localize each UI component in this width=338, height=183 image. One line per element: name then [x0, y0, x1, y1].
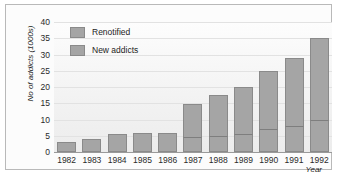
x-axis-title: Year [306, 165, 322, 174]
bar-segment-renotified[interactable] [310, 38, 329, 119]
x-axis-tick-label: 1985 [133, 155, 152, 167]
legend-label: New addicts [92, 46, 138, 55]
legend-swatch-icon [70, 45, 85, 56]
bar-column[interactable] [183, 22, 202, 152]
legend-item[interactable]: Renotified [70, 26, 138, 39]
bar-column[interactable] [310, 22, 329, 152]
bar-column[interactable] [158, 22, 177, 152]
y-axis-tick-label: 0 [28, 148, 50, 156]
bar-segment-new-addicts[interactable] [183, 137, 202, 152]
chart-legend: RenotifiedNew addicts [70, 26, 138, 62]
bar-segment-new-addicts[interactable] [133, 133, 152, 153]
x-axis-line [54, 152, 332, 153]
legend-swatch-icon [70, 27, 85, 38]
y-axis-tick-label: 25 [28, 67, 50, 75]
bar-segment-new-addicts[interactable] [285, 126, 304, 152]
bar-segment-renotified[interactable] [259, 71, 278, 129]
bar-segment-new-addicts[interactable] [259, 129, 278, 152]
legend-label: Renotified [92, 28, 130, 37]
bar-segment-renotified[interactable] [183, 104, 202, 137]
bar-segment-renotified[interactable] [234, 87, 253, 134]
bar-segment-new-addicts[interactable] [310, 120, 329, 153]
y-axis-tick-label: 20 [28, 83, 50, 91]
x-axis-tick-label: 1991 [285, 155, 304, 167]
x-axis-tick-label: 1982 [57, 155, 76, 167]
y-axis-tick-label: 5 [28, 132, 50, 140]
bar-column[interactable] [285, 22, 304, 152]
x-axis-tick-label: 1983 [82, 155, 101, 167]
bar-segment-new-addicts[interactable] [209, 136, 228, 152]
bar-segment-new-addicts[interactable] [158, 133, 177, 152]
chart-figure: No of addicts (1000s) 0510152025303540 1… [0, 0, 338, 183]
y-axis-tick-label: 15 [28, 99, 50, 107]
bar-column[interactable] [209, 22, 228, 152]
bar-segment-new-addicts[interactable] [57, 142, 76, 152]
legend-item[interactable]: New addicts [70, 44, 138, 57]
bar-segment-new-addicts[interactable] [108, 134, 127, 152]
bar-segment-renotified[interactable] [209, 95, 228, 136]
x-axis-tick-label: 1987 [183, 155, 202, 167]
y-axis-tick-label: 10 [28, 116, 50, 124]
bar-segment-new-addicts[interactable] [234, 134, 253, 152]
bar-segment-new-addicts[interactable] [82, 139, 101, 152]
y-axis-tick-labels: 0510152025303540 [26, 22, 50, 153]
bar-column[interactable] [234, 22, 253, 152]
chart-frame: No of addicts (1000s) 0510152025303540 1… [5, 4, 332, 170]
y-axis-tick-label: 35 [28, 34, 50, 42]
y-axis-tick-label: 30 [28, 51, 50, 59]
x-axis-tick-label: 1989 [234, 155, 253, 167]
x-axis-tick-label: 1984 [108, 155, 127, 167]
bar-segment-renotified[interactable] [285, 58, 304, 126]
x-axis-tick-label: 1990 [259, 155, 278, 167]
bar-column[interactable] [259, 22, 278, 152]
x-axis-tick-label: 1988 [209, 155, 228, 167]
x-axis-tick-labels: 1982198319841985198619871988198919901991… [54, 155, 332, 167]
y-axis-tick-label: 40 [28, 18, 50, 26]
x-axis-tick-label: 1986 [158, 155, 177, 167]
